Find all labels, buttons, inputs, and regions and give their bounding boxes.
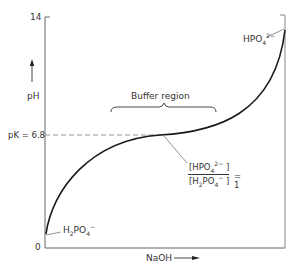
ratio-denominator: [H2PO4− ]	[188, 175, 229, 186]
h2po4-text: H	[63, 225, 70, 235]
titration-curve	[46, 30, 285, 234]
ph-arrow-icon	[30, 59, 34, 66]
hpo4-label: HPO42−	[243, 35, 275, 44]
y-min-label: 0	[35, 243, 41, 252]
buffer-region-label: Buffer region	[131, 92, 190, 101]
y-axis-label: pH	[27, 92, 39, 101]
x-axis-label: NaOH	[146, 254, 172, 263]
h2po4-sub2: 4	[86, 230, 90, 237]
ratio-equals: = 1	[234, 172, 241, 189]
hpo4-sub: 4	[262, 39, 266, 46]
ratio-equation: [HPO42− ] [H2PO4− ] = 1	[188, 163, 229, 185]
buffer-brace	[111, 103, 216, 112]
y-max-label: 14	[30, 13, 41, 22]
h2po4-label: H2PO4−	[63, 226, 95, 235]
hpo4-charge: 2−	[266, 32, 275, 39]
ratio-leader-line	[164, 136, 187, 163]
pk-label: pK = 6.8	[8, 131, 45, 140]
h2po4-text-mid: PO	[74, 225, 87, 235]
naoh-arrow-icon	[192, 256, 200, 260]
h2po4-charge: −	[90, 223, 95, 230]
h2po4-leader-line	[46, 232, 61, 235]
hpo4-text: HPO	[243, 34, 262, 44]
